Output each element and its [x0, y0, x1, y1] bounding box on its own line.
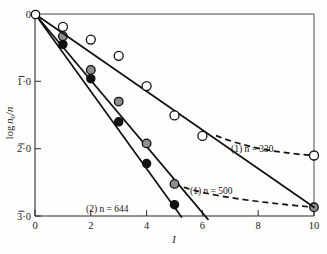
y-axis-title: logn0/n: [4, 107, 17, 139]
x-tick-text-3: 6: [200, 220, 205, 231]
data-point: [142, 139, 151, 148]
origin-point: [31, 10, 39, 18]
x-axis-ticks: [35, 210, 314, 216]
data-point: [170, 111, 179, 120]
y-tick-text-1: 1·0: [17, 76, 31, 87]
data-point: [87, 66, 96, 75]
data-point: [170, 180, 179, 189]
x-tick-text-5: 10: [309, 220, 320, 231]
y-axis-title-text: logn0/n: [4, 107, 17, 139]
series-markers-644: [59, 40, 179, 209]
data-point: [310, 151, 319, 160]
plot-canvas: 0 1·0 2·0 3·0 0 2 4 6 8 10 I logn0/n: [0, 0, 327, 254]
annotation-644: (2) n = 644: [86, 204, 129, 215]
data-point: [170, 201, 178, 209]
y-tick-text-0: 0: [26, 9, 31, 20]
data-point: [86, 35, 95, 44]
y-tick-label-0: 0: [26, 9, 31, 20]
x-axis-title: I: [171, 234, 176, 245]
x-tick-text-2: 4: [144, 220, 150, 231]
y-tick-label-2: 2·0: [17, 143, 31, 154]
data-point: [58, 22, 67, 31]
y-tick-label-3: 3·0: [17, 211, 31, 222]
y-tick-label-1: 1·0: [17, 76, 31, 87]
x-tick-text-4: 8: [256, 220, 261, 231]
data-point: [115, 118, 123, 126]
series-markers-500: [59, 32, 319, 212]
chart-figure: 0 1·0 2·0 3·0 0 2 4 6 8 10 I logn0/n: [0, 0, 327, 254]
x-tick-text-0: 0: [32, 220, 37, 231]
y-tick-text-3: 3·0: [17, 211, 31, 222]
x-tick-text-1: 2: [88, 220, 93, 231]
data-point: [143, 160, 151, 168]
series-line-644: [35, 14, 182, 217]
y-tick-text-2: 2·0: [17, 143, 31, 154]
annotation-330: (1) n = 330: [231, 144, 274, 155]
data-point: [114, 51, 123, 60]
series-markers-330: [58, 22, 318, 160]
y-axis-ticks: [35, 81, 41, 216]
data-point: [114, 97, 123, 106]
annotation-500: (1) n = 500: [190, 186, 233, 197]
data-point: [142, 82, 151, 91]
data-point: [198, 131, 207, 140]
